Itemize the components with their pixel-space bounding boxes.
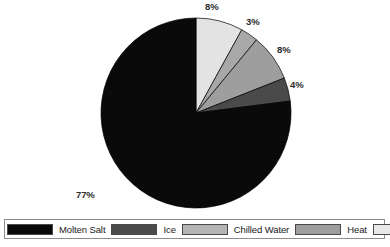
data-label-unspecified: 8%	[205, 2, 219, 12]
data-label-chilled-water: 8%	[277, 45, 291, 55]
legend-label-heat: Heat	[347, 224, 367, 235]
pie-plot-area: 8% 3% 8% 4% 77%	[0, 0, 390, 214]
pie-slices-group	[101, 18, 291, 208]
legend-entry-ice[interactable]: Ice	[111, 220, 181, 238]
legend-swatch-unspecified	[373, 224, 390, 235]
legend-swatch-molten-salt	[7, 224, 53, 235]
legend-entry-heat[interactable]: Heat	[295, 220, 373, 238]
data-label-molten-salt: 77%	[76, 190, 95, 200]
legend-swatch-chilled-water	[182, 224, 228, 235]
legend-label-ice: Ice	[163, 224, 175, 235]
chart-legend: Molten SaltIceChilled WaterHeatUnspecifi…	[4, 219, 385, 239]
data-label-ice: 4%	[290, 80, 304, 90]
legend-label-molten-salt: Molten Salt	[59, 224, 105, 235]
pie-chart-figure: 8% 3% 8% 4% 77% Molten SaltIceChilled Wa…	[0, 0, 390, 247]
data-label-heat: 3%	[246, 17, 260, 27]
legend-entry-unspecified[interactable]: Unspecified	[373, 220, 390, 238]
legend-label-chilled-water: Chilled Water	[234, 224, 289, 235]
legend-swatch-ice	[111, 224, 157, 235]
caption-strip	[0, 241, 390, 247]
legend-swatch-heat	[295, 224, 341, 235]
pie-svg	[0, 0, 390, 214]
legend-entry-chilled-water[interactable]: Chilled Water	[182, 220, 295, 238]
legend-entry-molten-salt[interactable]: Molten Salt	[7, 220, 111, 238]
